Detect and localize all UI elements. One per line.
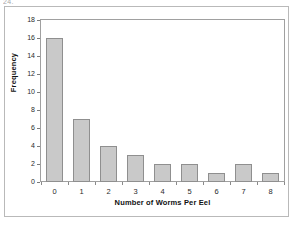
x-tick-label: 2: [95, 187, 122, 197]
y-tick-label: 2: [31, 159, 35, 168]
x-tick-label: 0: [41, 187, 68, 197]
chart-page: 24. 024681012141618 012345678 Number of …: [0, 0, 304, 225]
bar: [100, 146, 117, 182]
y-tick-label: 10: [27, 87, 35, 96]
y-tick-label: 16: [27, 33, 35, 42]
y-tick-label: 8: [31, 105, 35, 114]
y-tick-line: [37, 110, 40, 111]
bar-slot: [68, 20, 95, 182]
y-tick-line: [37, 182, 40, 183]
bar: [208, 173, 225, 182]
bar-slot: [41, 20, 68, 182]
bar: [127, 155, 144, 182]
y-tick-line: [37, 74, 40, 75]
y-tick-label: 4: [31, 141, 35, 150]
y-tick-line: [37, 164, 40, 165]
x-minor-tick: [68, 182, 69, 185]
bar: [46, 38, 63, 182]
x-tick-label: 3: [122, 187, 149, 197]
x-tick-label: 5: [176, 187, 203, 197]
x-minor-tick: [176, 182, 177, 185]
histogram-chart: 024681012141618 012345678 Number of Worm…: [4, 6, 289, 217]
x-axis-title: Number of Worms Per Eel: [40, 198, 285, 207]
bar: [235, 164, 252, 182]
y-tick-line: [37, 92, 40, 93]
page-number-artifact: 24.: [3, 0, 19, 4]
bar-slot: [230, 20, 257, 182]
y-tick-label: 0: [31, 177, 35, 186]
x-minor-tick: [203, 182, 204, 185]
bar-slot: [149, 20, 176, 182]
plot-area: [41, 20, 284, 182]
bar: [181, 164, 198, 182]
y-tick-line: [37, 38, 40, 39]
bar-slot: [176, 20, 203, 182]
y-tick-line: [37, 128, 40, 129]
x-minor-tick: [122, 182, 123, 185]
x-minor-tick: [230, 182, 231, 185]
y-axis-title: Frequency: [9, 37, 18, 109]
y-tick-label: 6: [31, 123, 35, 132]
x-minor-tick: [257, 182, 258, 185]
y-tick-line: [37, 56, 40, 57]
bar-slot: [257, 20, 284, 182]
x-tick-label: 4: [149, 187, 176, 197]
x-tick-label: 1: [68, 187, 95, 197]
x-tick-label: 7: [230, 187, 257, 197]
bar: [73, 119, 90, 182]
bar-slot: [95, 20, 122, 182]
x-minor-tick: [41, 182, 42, 185]
y-tick-label: 12: [27, 69, 35, 78]
y-tick-line: [37, 20, 40, 21]
bar-slot: [203, 20, 230, 182]
y-tick-label: 14: [27, 51, 35, 60]
bar: [262, 173, 279, 182]
x-minor-tick: [95, 182, 96, 185]
x-minor-tick: [149, 182, 150, 185]
bar: [154, 164, 171, 182]
y-tick-label: 18: [27, 15, 35, 24]
bar-slot: [122, 20, 149, 182]
bar-series: [41, 20, 284, 182]
y-tick-line: [37, 146, 40, 147]
x-tick-label: 6: [203, 187, 230, 197]
x-tick-label: 8: [257, 187, 284, 197]
x-minor-tick: [284, 182, 285, 185]
